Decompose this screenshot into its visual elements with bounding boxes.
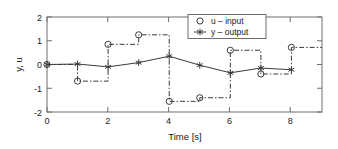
x-tick-label-2: 2 <box>105 116 110 126</box>
x-tick-label-6: 6 <box>227 116 232 126</box>
x-tick-label-8: 8 <box>288 116 293 126</box>
y-tick-label-neg2: -2 <box>34 108 42 118</box>
legend-label-y-output: y – output <box>211 27 249 37</box>
y-axis-ticks <box>47 17 322 112</box>
chart-canvas: 2 1 0 -1 -2 0 2 4 6 8 Time [s] y, u u – … <box>0 0 338 149</box>
y-tick-label-0: 0 <box>37 60 42 70</box>
legend-label-u-input: u – input <box>211 16 244 26</box>
u-input-step-line <box>47 35 322 102</box>
x-tick-label-4: 4 <box>166 116 171 126</box>
x-tick-label-0: 0 <box>44 116 49 126</box>
y-axis-label: y, u <box>13 57 24 72</box>
y-tick-label-neg1: -1 <box>34 84 42 94</box>
y-tick-label-1: 1 <box>37 36 42 46</box>
chart-figure: 2 1 0 -1 -2 0 2 4 6 8 Time [s] y, u u – … <box>0 0 338 149</box>
plot-frame <box>47 17 322 112</box>
x-axis-label: Time [s] <box>168 131 201 142</box>
y-tick-label-2: 2 <box>37 13 42 23</box>
series-u-input <box>44 32 322 105</box>
legend[interactable]: u – input y – output <box>188 15 266 39</box>
